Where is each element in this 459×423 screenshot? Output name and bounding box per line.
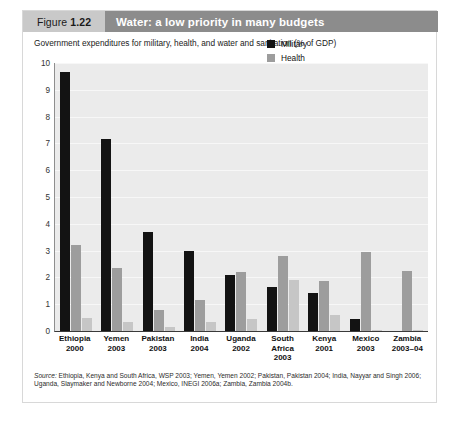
bar-health bbox=[71, 245, 81, 331]
bar-water bbox=[289, 280, 299, 331]
bar-group bbox=[262, 63, 303, 331]
y-tick-label: 5 bbox=[45, 193, 50, 202]
figure-header: Figure 1.22 Water: a low priority in man… bbox=[23, 11, 438, 32]
x-axis-label: Yemen2003 bbox=[96, 334, 138, 363]
bar-group bbox=[387, 63, 428, 331]
bar-military bbox=[60, 72, 70, 331]
bar-water bbox=[82, 318, 92, 331]
bar-groups bbox=[55, 63, 428, 331]
source-note: Source: Ethiopia, Kenya and South Africa… bbox=[34, 372, 428, 389]
bar-water bbox=[247, 319, 257, 331]
bar-group bbox=[304, 63, 345, 331]
figure-title: Water: a low priority in many budgets bbox=[105, 11, 438, 32]
bar-health bbox=[319, 281, 329, 331]
y-tick-label: 1 bbox=[45, 300, 50, 309]
plot-area bbox=[54, 63, 428, 332]
bar-water bbox=[123, 322, 133, 331]
chart-plot: 012345678910 Ethiopia2000Yemen2003Pakist… bbox=[34, 63, 428, 353]
bar-group bbox=[55, 63, 96, 331]
y-tick-label: 7 bbox=[45, 139, 50, 148]
bar-water bbox=[413, 330, 423, 331]
bar-health bbox=[195, 300, 205, 331]
legend-label-health: Health bbox=[281, 53, 305, 63]
bar-military bbox=[143, 232, 153, 331]
figure-tag-number: 1.22 bbox=[70, 16, 91, 28]
bar-group bbox=[138, 63, 179, 331]
bar-military bbox=[225, 275, 235, 331]
legend-label-military: Military bbox=[281, 39, 307, 49]
x-axis-label: Pakistan2003 bbox=[137, 334, 179, 363]
source-text: Ethiopia, Kenya and South Africa, WSP 20… bbox=[34, 372, 421, 387]
y-tick-label: 6 bbox=[45, 166, 50, 175]
y-tick-label: 9 bbox=[45, 85, 50, 94]
y-tick-label: 10 bbox=[41, 59, 50, 68]
x-axis-label: Uganda2002 bbox=[220, 334, 262, 363]
x-axis-label: SouthAfrica2003 bbox=[262, 334, 304, 363]
bar-group bbox=[221, 63, 262, 331]
bar-group bbox=[96, 63, 137, 331]
bar-military bbox=[350, 319, 360, 331]
bar-military bbox=[267, 287, 277, 331]
y-tick-label: 8 bbox=[45, 112, 50, 121]
y-tick-label: 4 bbox=[45, 219, 50, 228]
bar-water bbox=[206, 322, 216, 331]
bar-military bbox=[101, 139, 111, 331]
bar-health bbox=[154, 310, 164, 331]
bar-health bbox=[278, 256, 288, 331]
bar-military bbox=[184, 251, 194, 331]
figure-number-tag: Figure 1.22 bbox=[23, 11, 105, 32]
legend-swatch-health bbox=[267, 54, 275, 62]
y-axis: 012345678910 bbox=[34, 63, 52, 331]
x-axis-label: Mexico2003 bbox=[345, 334, 387, 363]
figure-panel: Figure 1.22 Water: a low priority in man… bbox=[22, 10, 437, 403]
y-tick-label: 0 bbox=[45, 327, 50, 336]
x-axis-label: Ethiopia2000 bbox=[54, 334, 96, 363]
bar-water bbox=[330, 315, 340, 331]
x-axis-label: Zambia2003–04 bbox=[387, 334, 429, 363]
bar-water bbox=[372, 330, 382, 331]
legend-item: Military bbox=[267, 39, 357, 49]
x-axis-label: Kenya2001 bbox=[303, 334, 345, 363]
legend-item: Health bbox=[267, 53, 357, 63]
y-tick-label: 3 bbox=[45, 246, 50, 255]
bar-health bbox=[112, 268, 122, 331]
bar-water bbox=[165, 327, 175, 331]
y-tick-label: 2 bbox=[45, 273, 50, 282]
bar-health bbox=[361, 252, 371, 331]
figure-tag-prefix: Figure bbox=[37, 16, 67, 28]
x-axis-label: India2004 bbox=[179, 334, 221, 363]
legend-swatch-military bbox=[267, 40, 275, 48]
bar-military bbox=[308, 293, 318, 331]
x-axis-labels: Ethiopia2000Yemen2003Pakistan2003India20… bbox=[54, 334, 428, 363]
bar-group bbox=[179, 63, 220, 331]
bar-health bbox=[236, 272, 246, 331]
source-label: Source: bbox=[34, 372, 57, 379]
bar-health bbox=[402, 271, 412, 331]
bar-group bbox=[345, 63, 386, 331]
